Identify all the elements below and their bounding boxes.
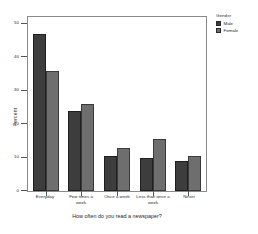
x-label-few-times-a-week: Few times a week [63, 194, 99, 205]
x-label-once-a-week: Once a week [99, 194, 135, 205]
y-tick-0: 0 [21, 190, 27, 191]
y-tick-label-40: 40 [14, 54, 19, 58]
x-label-everyday: Everyday [27, 194, 63, 205]
x-axis-tick-labels: Everyday Few times a week Once a week Le… [27, 194, 207, 205]
y-tick-10: 10 [21, 157, 27, 158]
y-tick-label-10: 10 [14, 155, 19, 159]
bar-group-few-times-a-week [64, 17, 100, 191]
bars-layer [28, 17, 206, 191]
bar-chart: Percent 0 10 20 30 40 50 [0, 0, 258, 234]
bar-female-less-than-once-a-week[interactable] [153, 139, 166, 191]
plot-frame: 0 10 20 30 40 50 [27, 16, 207, 192]
bar-male-once-a-week[interactable] [104, 156, 117, 191]
plot-area: 0 10 20 30 40 50 [28, 17, 206, 191]
y-tick-label-30: 30 [14, 88, 19, 92]
legend: Gender Male Female [216, 13, 256, 36]
y-tick-20: 20 [21, 123, 27, 124]
legend-item-male[interactable]: Male [216, 21, 256, 26]
legend-label-male: Male [224, 21, 234, 26]
bar-group-everyday [28, 17, 64, 191]
bar-female-few-times-a-week[interactable] [81, 104, 94, 191]
bar-female-never[interactable] [188, 156, 201, 191]
legend-label-female: Female [224, 28, 239, 33]
legend-swatch-female-icon [216, 28, 221, 33]
bar-group-once-a-week [99, 17, 135, 191]
x-axis-title: How often do you read a newspaper? [27, 213, 207, 219]
bar-male-never[interactable] [175, 161, 188, 191]
bar-group-never [170, 17, 206, 191]
y-tick-label-20: 20 [14, 121, 19, 125]
bar-female-everyday[interactable] [46, 71, 59, 191]
x-label-never: Never [171, 194, 207, 205]
y-tick-label-0: 0 [17, 188, 19, 192]
x-label-less-than-once-a-week: Less than once a week [135, 194, 171, 205]
y-tick-40: 40 [21, 56, 27, 57]
bar-group-less-than-once-a-week [135, 17, 171, 191]
legend-swatch-male-icon [216, 21, 221, 26]
legend-item-female[interactable]: Female [216, 28, 256, 33]
bar-male-few-times-a-week[interactable] [68, 111, 81, 191]
bar-male-less-than-once-a-week[interactable] [140, 158, 153, 191]
legend-title: Gender [216, 13, 256, 18]
y-tick-30: 30 [21, 90, 27, 91]
y-tick-50: 50 [21, 23, 27, 24]
bar-female-once-a-week[interactable] [117, 148, 130, 192]
bar-male-everyday[interactable] [33, 34, 46, 191]
y-tick-label-50: 50 [14, 21, 19, 25]
